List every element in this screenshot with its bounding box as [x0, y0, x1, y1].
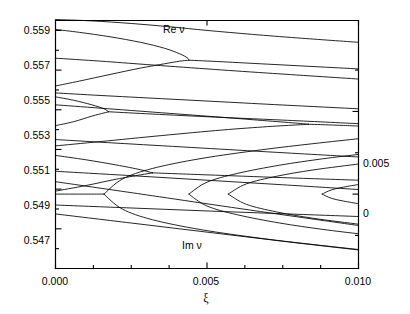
curve-8 — [309, 124, 359, 126]
curve-23 — [228, 164, 358, 194]
x-axis-title: ξ — [186, 292, 226, 304]
curve-5 — [56, 93, 359, 109]
curve-24 — [228, 194, 358, 224]
y-tick-label-left-4: 0.551 — [4, 165, 50, 176]
curve-7 — [56, 124, 309, 146]
x-tick-label-2: 0.010 — [328, 276, 388, 287]
y-tick-label-left-2: 0.555 — [4, 95, 50, 106]
curve-13 — [56, 155, 153, 172]
curve-6 — [56, 105, 309, 124]
curve-9 — [56, 97, 109, 112]
curve-19 — [104, 139, 359, 194]
curve-layer — [56, 20, 359, 250]
curve-17 — [56, 205, 359, 217]
x-tick-label-1: 0.005 — [176, 276, 236, 287]
eigenvalue-branch-plot — [0, 0, 410, 314]
curve-22 — [189, 194, 359, 234]
curve-26 — [322, 194, 358, 204]
annotation-im-nu: Im ν — [182, 240, 202, 251]
axis-layer — [56, 21, 359, 269]
y-tick-label-left-5: 0.549 — [4, 200, 50, 211]
curve-10 — [56, 112, 109, 126]
y-tick-label-left-1: 0.557 — [4, 60, 50, 71]
curve-20 — [104, 194, 359, 249]
y-tick-label-left-0: 0.559 — [4, 25, 50, 36]
figure-container: 0.559 0.557 0.555 0.553 0.551 0.549 0.54… — [0, 0, 410, 314]
curve-11 — [109, 112, 359, 124]
x-tick-label-0: 0.000 — [25, 276, 85, 287]
curve-12 — [56, 140, 359, 157]
curve-27 — [56, 182, 359, 226]
y-tick-label-left-3: 0.553 — [4, 130, 50, 141]
y-tick-label-right-1: 0 — [363, 208, 369, 219]
y-tick-label-left-6: 0.547 — [4, 235, 50, 246]
curve-3 — [189, 60, 359, 69]
y-tick-label-right-0: 0.005 — [363, 158, 389, 169]
curve-16 — [56, 171, 359, 189]
annotation-re-nu: Re ν — [163, 24, 185, 35]
curve-2 — [56, 60, 189, 86]
